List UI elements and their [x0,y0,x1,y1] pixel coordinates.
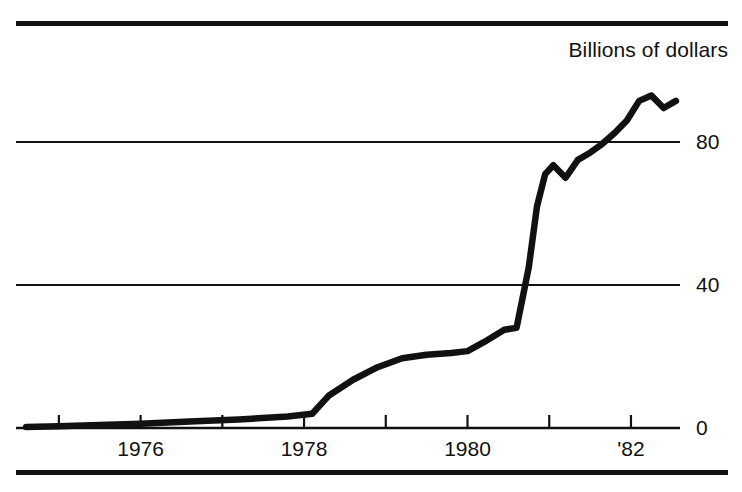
x-axis-label-1980: 1980 [444,437,491,461]
x-axis-label-1976: 1976 [117,437,164,461]
y-axis-label-40: 40 [696,273,719,297]
y-axis-label-80: 80 [696,130,719,154]
x-axis-label-1982: '82 [617,437,644,461]
chart-figure: Billions of dollars 04080 197619781980'8… [0,0,742,492]
chart-plot-area [0,0,742,492]
y-axis-label-0: 0 [696,416,708,440]
data-line-group [26,96,676,427]
x-axis-label-1978: 1978 [281,437,328,461]
data-line-series-1 [26,96,676,427]
